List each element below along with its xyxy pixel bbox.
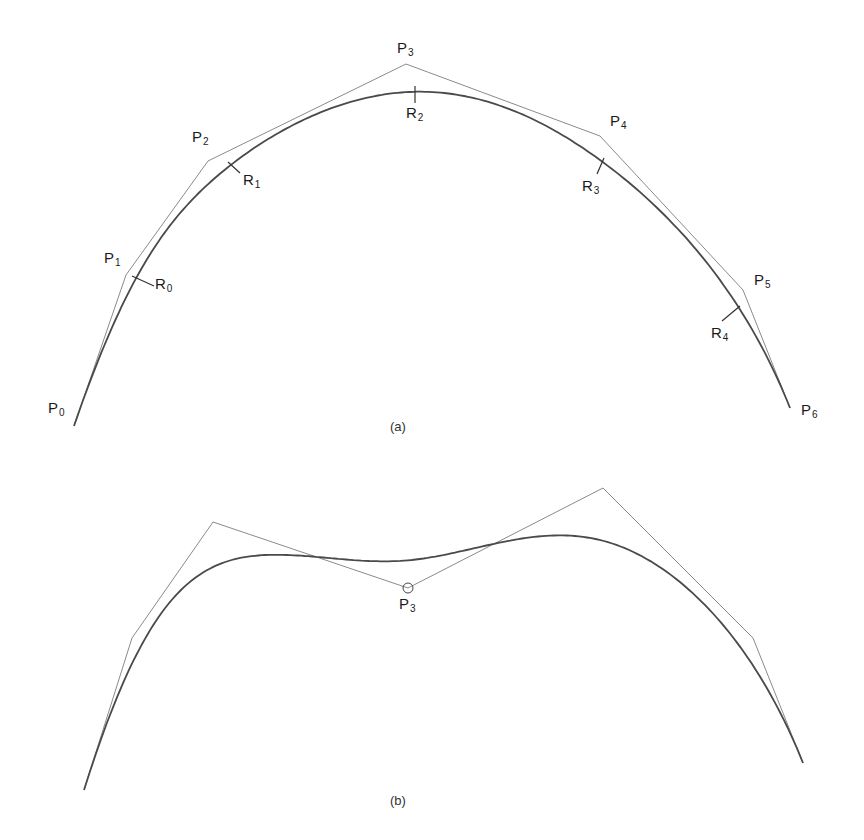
control-point-label-P1: P1	[104, 250, 121, 268]
join-point-label-R4: R4	[711, 325, 728, 343]
join-point-label-R2: R2	[406, 105, 423, 123]
spline-curve	[84, 535, 803, 790]
control-point-label-P4: P4	[610, 113, 627, 131]
control-point-label-P0: P0	[48, 400, 65, 418]
panel-b-spline	[84, 488, 803, 790]
panel-a-spline	[74, 64, 790, 426]
diagram-canvas	[0, 0, 864, 840]
caption-b: (b)	[390, 793, 406, 808]
join-point-label-R1: R1	[243, 172, 260, 190]
control-point-label-P6: P6	[801, 402, 818, 420]
join-point-ticks	[132, 86, 740, 321]
spline-curve	[74, 92, 790, 426]
control-polygon	[84, 488, 803, 790]
join-point-tick	[722, 306, 740, 321]
join-point-label-R0: R0	[155, 276, 172, 294]
join-point-label-R3: R3	[582, 178, 599, 196]
control-point-label-P3: P3	[397, 40, 414, 58]
control-point-label-P5: P5	[754, 272, 771, 290]
control-point-label-P3: P3	[399, 596, 416, 614]
caption-a: (a)	[390, 419, 406, 434]
control-point-label-P2: P2	[192, 129, 209, 147]
control-polygon	[74, 64, 790, 426]
